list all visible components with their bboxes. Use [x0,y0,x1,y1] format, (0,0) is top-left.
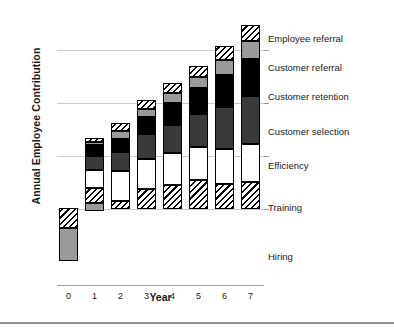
segment-efficiency [241,144,260,182]
segment-customer-referral [111,131,130,139]
segment-customer-selection [85,156,104,170]
plot-area: 0 1 2 3 4 5 6 7 [57,18,264,272]
legend-item-customer-selection: Customer selection [268,126,349,137]
segment-efficiency [189,147,208,180]
segment-training [111,201,130,209]
segment-customer-retention [215,75,234,107]
segment-training [215,184,234,209]
segment-employee-referral [241,25,260,41]
legend-item-customer-retention: Customer retention [268,91,349,102]
legend-item-employee-referral: Employee referral [268,33,343,44]
legend-item-hiring: Hiring [268,251,293,262]
segment-customer-referral [137,109,156,117]
legend-item-efficiency: Efficiency [268,160,308,171]
segment-training [163,185,182,209]
segment-customer-referral [215,60,234,75]
footer-divider [0,322,394,324]
segment-customer-retention [241,59,260,96]
x-axis-title: Year [57,291,264,303]
segment-employee-referral [111,123,130,131]
leader-tick-efficiency [264,156,269,157]
segment-customer-referral [163,93,182,103]
segment-employee-referral [189,66,208,77]
leader-tick-customer-referral [264,50,269,51]
segment-customer-retention [85,145,104,156]
segment-employee-referral [137,100,156,109]
segment-customer-retention [111,139,130,152]
segment-customer-selection [189,114,208,147]
segment-training [189,180,208,209]
segment-efficiency [163,153,182,185]
chart-figure: Annual Employee Contribution [0,0,394,331]
leader-tick-customer-selection [264,103,269,104]
segment-customer-selection [137,134,156,159]
segment-hiring [59,228,78,261]
segment-employee-referral [215,46,234,60]
segment-training [59,208,78,228]
segment-customer-selection [111,152,130,171]
segment-efficiency [215,149,234,184]
segment-hiring [85,203,104,211]
segment-customer-selection [163,125,182,153]
legend-item-training: Training [268,202,302,213]
segment-customer-retention [189,88,208,114]
segment-customer-selection [241,96,260,144]
segment-customer-referral [241,41,260,59]
leader-tick-training [264,209,269,210]
y-axis-title: Annual Employee Contribution [30,26,42,226]
segment-employee-referral [163,83,182,93]
segment-efficiency [137,159,156,189]
segment-training [241,182,260,209]
segment-training [85,188,104,203]
x-axis-line [57,285,264,286]
segment-customer-retention [163,103,182,125]
segment-customer-referral [189,77,208,88]
segment-customer-retention [137,117,156,134]
segment-efficiency [85,170,104,188]
segment-customer-selection [215,107,234,149]
legend-item-customer-referral: Customer referral [268,62,342,73]
segment-efficiency [111,171,130,201]
segment-training [137,189,156,209]
